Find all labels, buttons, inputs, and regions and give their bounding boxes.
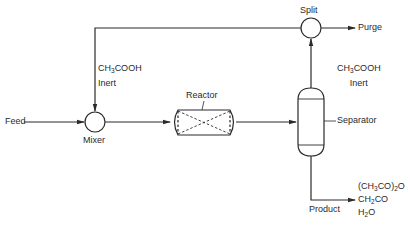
purge-label: Purge	[358, 22, 382, 33]
recycle-component-inert: Inert	[98, 78, 142, 89]
product-stream-line	[311, 156, 355, 200]
overhead-component-acetic-acid: CH3COOH	[337, 63, 381, 76]
flow-diagram	[0, 0, 410, 225]
mixer-unit	[85, 112, 105, 132]
product-label: Product	[309, 204, 340, 215]
overhead-composition: CH3COOH Inert	[337, 63, 381, 89]
reactor-unit	[175, 110, 234, 135]
overhead-component-inert: Inert	[337, 78, 381, 89]
feed-label: Feed	[5, 116, 26, 127]
recycle-composition: CH3COOH Inert	[98, 63, 142, 89]
product-component-acetic-anhydride: (CH3CO)2O	[358, 181, 405, 194]
mixer-label: Mixer	[83, 135, 105, 146]
separator-label: Separator	[337, 115, 377, 126]
product-composition: (CH3CO)2O CH2CO H2O	[358, 181, 405, 220]
split-unit	[301, 18, 321, 38]
recycle-component-acetic-acid: CH3COOH	[98, 63, 142, 76]
product-component-water: H2O	[358, 207, 405, 220]
reactor-label: Reactor	[186, 90, 218, 101]
separator-unit	[298, 88, 324, 156]
split-label: Split	[300, 5, 318, 16]
product-component-ketene: CH2CO	[358, 194, 405, 207]
reactor-leader-line	[202, 101, 204, 110]
